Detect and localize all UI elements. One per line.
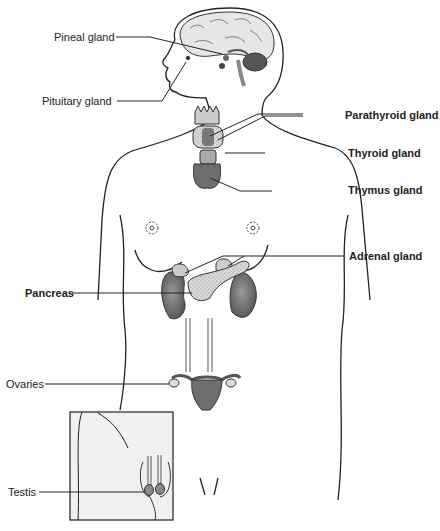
label-pituitary-gland: Pituitary gland — [42, 95, 112, 107]
label-ovaries: Ovaries — [6, 378, 44, 390]
body-illustration — [0, 0, 440, 531]
endocrine-diagram: Pineal gland Pituitary gland Parathyroid… — [0, 0, 440, 531]
label-pancreas: Pancreas — [25, 287, 74, 299]
left-adrenal — [172, 264, 188, 277]
label-thymus-gland: Thymus gland — [348, 184, 423, 196]
label-parathyroid-gland: Parathyroid gland — [345, 109, 439, 121]
label-thyroid-gland: Thyroid gland — [348, 147, 421, 159]
uterus — [192, 380, 222, 410]
label-testis: Testis — [8, 486, 36, 498]
right-ovary — [226, 379, 236, 387]
left-ovary — [169, 379, 179, 387]
right-kidney — [230, 272, 256, 317]
label-adrenal-gland: Adrenal gland — [349, 250, 422, 262]
brain-icon — [180, 12, 274, 86]
label-pineal-gland: Pineal gland — [54, 31, 115, 43]
male-inset — [70, 412, 173, 520]
neck-glands — [193, 106, 223, 188]
left-testis — [145, 485, 154, 496]
left-kidney — [162, 272, 185, 319]
right-testis — [156, 484, 165, 495]
